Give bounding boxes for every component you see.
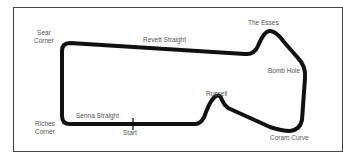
label-senna-straight: Senna Straight bbox=[76, 112, 119, 120]
label-coram-curve: Coram Curve bbox=[270, 134, 309, 142]
riches-corner-line1: Riches bbox=[35, 120, 55, 128]
label-russell: Russell bbox=[206, 90, 227, 98]
label-revett-straight: Revett Straight bbox=[143, 36, 186, 44]
label-the-esses: The Esses bbox=[248, 19, 279, 27]
label-riches-corner: Riches Corner bbox=[35, 120, 55, 135]
label-sear-corner: Sear Corner bbox=[34, 29, 54, 44]
sear-corner-line1: Sear bbox=[34, 29, 54, 37]
sear-corner-line2: Corner bbox=[34, 37, 54, 45]
label-bomb-hole: Bomb Hole bbox=[268, 67, 300, 75]
label-start: Start bbox=[123, 129, 137, 137]
riches-corner-line2: Corner bbox=[35, 128, 55, 136]
